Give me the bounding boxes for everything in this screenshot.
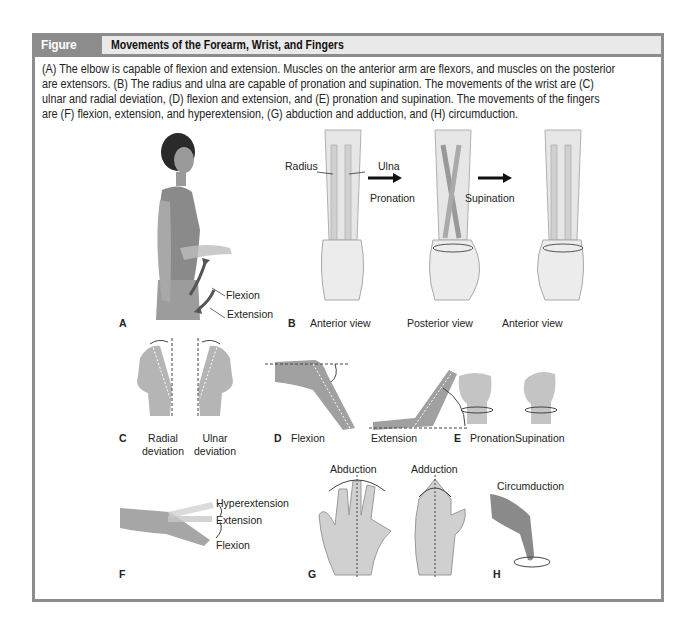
label-ulnar: Ulnar <box>190 432 240 445</box>
label-view-3: Anterior view <box>502 317 563 329</box>
label-g-abduction: Abduction <box>330 463 377 475</box>
figure-title: Movements of the Forearm, Wrist, and Fin… <box>111 36 344 54</box>
label-radius: Radius <box>285 160 318 172</box>
finger-circumduction-icon <box>490 494 570 574</box>
label-f-hyperextension: Hyperextension <box>216 497 289 509</box>
label-radial: Radial <box>138 432 188 445</box>
label-deviation-1: deviation <box>138 445 188 458</box>
panel-letter-c: C <box>119 432 127 444</box>
label-deviation-2: deviation <box>190 445 240 458</box>
label-e-supination: Supination <box>515 432 565 444</box>
panel-letter-b: B <box>288 317 296 329</box>
panel-letter-e: E <box>454 432 461 444</box>
label-pronation: Pronation <box>370 192 415 204</box>
label-f-flexion: Flexion <box>216 539 250 551</box>
fist-rotation-icon <box>455 372 565 427</box>
figure-header: Figure 14.7 Movements of the Forearm, Wr… <box>35 36 661 57</box>
figure-caption: (A) The elbow is capable of flexion and … <box>42 62 618 122</box>
panel-letter-d: D <box>274 432 282 444</box>
label-view-1: Anterior view <box>310 317 371 329</box>
label-ulna: Ulna <box>378 160 400 172</box>
wrist-flexion-extension-icon <box>265 340 475 430</box>
forearm-bones-icon <box>305 130 625 310</box>
label-g-adduction: Adduction <box>411 463 458 475</box>
panel-letter-f: F <box>119 568 125 580</box>
figure-number: Figure 14.7 <box>35 36 102 54</box>
label-a-flexion: Flexion <box>226 289 260 301</box>
panel-letter-g: G <box>308 568 316 580</box>
panel-letter-h: H <box>493 568 501 580</box>
label-d-extension: Extension <box>371 432 417 444</box>
finger-flexion-icon <box>120 500 230 550</box>
finger-abduction-hands-icon <box>315 475 475 580</box>
label-f-extension: Extension <box>216 514 262 526</box>
label-a-extension: Extension <box>227 308 273 320</box>
label-radial-deviation: Radial deviation <box>138 432 188 458</box>
label-ulnar-deviation: Ulnar deviation <box>190 432 240 458</box>
label-e-pronation: Pronation <box>470 432 515 444</box>
label-h-circumduction: Circumduction <box>497 480 564 492</box>
wrist-deviation-hands-icon <box>130 338 240 423</box>
label-supination: Supination <box>465 192 515 204</box>
panel-letter-a: A <box>119 317 127 329</box>
label-d-flexion: Flexion <box>291 432 325 444</box>
label-view-2: Posterior view <box>407 317 473 329</box>
